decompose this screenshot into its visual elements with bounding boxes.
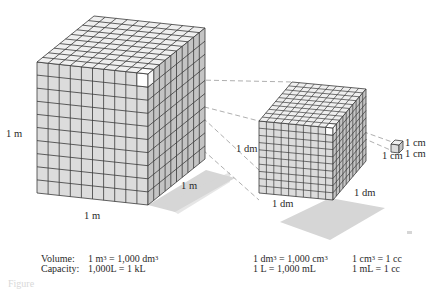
mid-cube-height-label: 1 dm bbox=[236, 143, 257, 154]
capacity-label: Capacity: bbox=[41, 263, 79, 274]
eq-exponent: 3 bbox=[155, 254, 158, 261]
small-cube-depth-label: 1 cm bbox=[405, 148, 426, 159]
big-cube-width-label: 1 m bbox=[84, 210, 100, 221]
small-cube-width-label: 1 cm bbox=[382, 150, 403, 161]
big-cube-height-label: 1 m bbox=[6, 128, 22, 139]
mid-capacity-equation: 1 L = 1,000 mL bbox=[253, 263, 316, 274]
mid-cube-depth-label: 1 dm bbox=[354, 187, 375, 198]
figure-caption: Figure bbox=[8, 278, 34, 289]
mid-cube-width-label: 1 dm bbox=[272, 198, 293, 209]
big-cube-depth-label: 1 m bbox=[181, 180, 197, 191]
cubic-meter-cube bbox=[37, 16, 205, 205]
eq-exponent: 3 bbox=[103, 254, 106, 261]
big-capacity-equation: 1,000L = 1 kL bbox=[88, 263, 146, 274]
cubic-decimeter-cube bbox=[259, 82, 366, 200]
small-cube-height-label: 1 cm bbox=[405, 137, 426, 148]
eq-exponent: 3 bbox=[372, 254, 375, 261]
small-capacity-equation: 1 mL = 1 cc bbox=[352, 263, 400, 274]
eq-exponent: 3 bbox=[273, 254, 276, 261]
eq-exponent: 3 bbox=[324, 254, 327, 261]
